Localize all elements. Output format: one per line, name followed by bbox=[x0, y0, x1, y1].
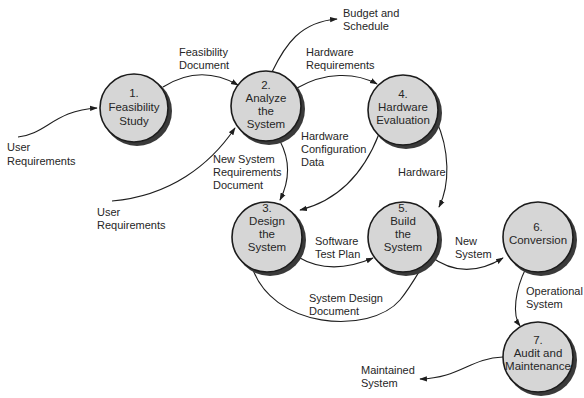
flow-7-to-maintained bbox=[420, 357, 503, 379]
node-label-line: Design bbox=[249, 215, 285, 227]
flow-label-line: Software bbox=[315, 235, 358, 247]
flow-user-req-to-1 bbox=[18, 108, 97, 137]
flow-label-line: Maintained bbox=[361, 364, 415, 376]
node-label-line: Build bbox=[390, 215, 416, 227]
node-label-line: 7. bbox=[533, 334, 543, 346]
node-label-line: Conversion bbox=[509, 234, 567, 246]
flow-label-line: Hardware bbox=[301, 130, 349, 142]
flow-label-line: Requirements bbox=[213, 166, 282, 178]
flow-label-line: Budget and bbox=[343, 7, 399, 19]
node-label-line: System bbox=[247, 118, 285, 130]
flow-label-line: Hardware bbox=[398, 166, 446, 178]
node-label-line: 2. bbox=[261, 79, 271, 91]
node-label-line: 6. bbox=[533, 221, 543, 233]
node-label-line: Hardware bbox=[378, 101, 428, 113]
process-node-2[interactable]: 2. Analyze the System bbox=[231, 71, 305, 145]
node-label-line: the bbox=[259, 228, 275, 240]
flow-2-to-4 bbox=[297, 75, 377, 88]
node-label-line: Evaluation bbox=[376, 114, 430, 126]
data-flow-diagram: 1. Feasibility Study 2. Analyze the Syst… bbox=[0, 0, 584, 398]
flow-label-hardware-configuration-data: Hardware Configuration Data bbox=[301, 130, 366, 168]
flow-label-system-design-document: System Design Document bbox=[309, 292, 383, 317]
flow-label-new-system: New System bbox=[455, 235, 492, 260]
process-node-7[interactable]: 7. Audit and Maintenance bbox=[503, 322, 577, 396]
flow-label-line: Test Plan bbox=[315, 248, 360, 260]
flow-label-line: System bbox=[526, 298, 563, 310]
node-label-line: the bbox=[395, 228, 411, 240]
flow-label-software-test-plan: Software Test Plan bbox=[315, 235, 360, 260]
flow-label-maintained-system: Maintained System bbox=[361, 364, 415, 389]
flow-label-line: Requirements bbox=[306, 59, 375, 71]
flow-label-hardware-requirements: Hardware Requirements bbox=[306, 46, 375, 71]
node-label-line: Maintenance bbox=[505, 360, 571, 372]
flow-label-operational-system: Operational System bbox=[526, 285, 583, 310]
flow-1-to-2 bbox=[163, 75, 238, 87]
flow-label-line: Feasibility bbox=[179, 46, 228, 58]
flow-label-line: Schedule bbox=[343, 20, 389, 32]
flow-label-line: Hardware bbox=[306, 46, 354, 58]
flow-label-line: User bbox=[7, 141, 31, 153]
node-label-line: Audit and bbox=[514, 347, 563, 359]
flow-label-line: Document bbox=[179, 59, 229, 71]
process-node-4[interactable]: 4. Hardware Evaluation bbox=[368, 75, 442, 149]
flow-label-user-requirements-1: User Requirements bbox=[7, 141, 76, 167]
flow-label-new-system-requirements-document: New System Requirements Document bbox=[213, 153, 282, 191]
node-label-line: 4. bbox=[398, 88, 408, 100]
process-node-6[interactable]: 6. Conversion bbox=[503, 202, 577, 276]
flow-label-user-requirements-2: User Requirements bbox=[97, 206, 166, 231]
flow-label-line: User bbox=[97, 206, 121, 218]
flow-label-line: New System bbox=[213, 153, 275, 165]
flow-label-budget-and-schedule: Budget and Schedule bbox=[343, 7, 399, 32]
node-label-line: 1. bbox=[129, 87, 139, 99]
flow-label-line: System bbox=[455, 248, 492, 260]
node-label-line: Analyze bbox=[246, 92, 287, 104]
process-node-3[interactable]: 3. Design the System bbox=[232, 202, 306, 276]
node-label-line: Feasibility bbox=[108, 101, 159, 113]
flow-label-line: Configuration bbox=[301, 143, 366, 155]
flow-label-line: Requirements bbox=[97, 219, 166, 231]
process-node-5[interactable]: 5. Build the System bbox=[368, 202, 442, 276]
flow-label-line: Operational bbox=[526, 285, 583, 297]
node-label-line: Study bbox=[119, 115, 149, 127]
flow-label-hardware: Hardware bbox=[398, 166, 446, 178]
flow-6-to-7 bbox=[515, 268, 526, 326]
node-label-line: 3. bbox=[262, 202, 272, 214]
process-node-1[interactable]: 1. Feasibility Study bbox=[100, 74, 172, 146]
node-label-line: System bbox=[248, 241, 286, 253]
flow-label-line: Requirements bbox=[7, 155, 76, 167]
flow-label-line: New bbox=[455, 235, 477, 247]
node-label-line: the bbox=[258, 105, 274, 117]
flow-label-line: Document bbox=[309, 305, 359, 317]
flow-label-line: System bbox=[361, 377, 398, 389]
node-label-line: System bbox=[384, 241, 422, 253]
flow-label-line: Document bbox=[213, 179, 263, 191]
node-label-line: 5. bbox=[398, 202, 408, 214]
flow-4-to-5 bbox=[436, 120, 447, 207]
flow-label-feasibility-document: Feasibility Document bbox=[179, 46, 229, 71]
flow-label-line: System Design bbox=[309, 292, 383, 304]
flow-label-line: Data bbox=[301, 156, 325, 168]
